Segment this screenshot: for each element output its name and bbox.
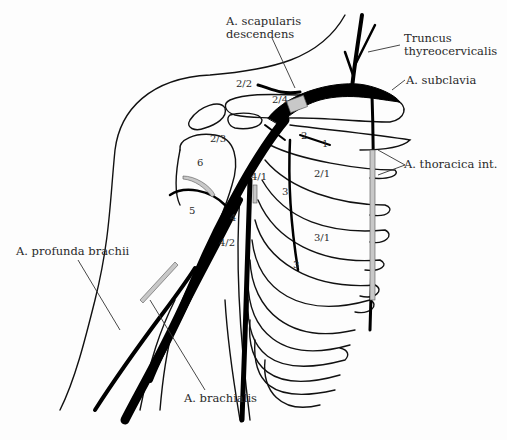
ligation-profunda	[140, 262, 178, 303]
marker-4-1: 4/1	[251, 171, 267, 182]
label-line: thyreocervicalis	[404, 45, 497, 58]
label-brachialis: A. brachialis	[184, 392, 257, 405]
marker-3: 3	[282, 186, 288, 197]
label-subclavia: A. subclavia	[406, 74, 476, 87]
artery-illustration	[0, 0, 507, 440]
label-line: descendens	[226, 28, 301, 41]
ligation-thoracica	[370, 150, 375, 300]
marker-3b: 3	[293, 259, 299, 270]
marker-5: 5	[189, 205, 195, 216]
ligation-4-1	[253, 185, 257, 203]
marker-4-2: 4/2	[219, 237, 235, 248]
label-truncus-thyreocervicalis: Truncus thyreocervicalis	[404, 32, 497, 58]
label-profunda-brachii: A. profunda brachii	[16, 245, 129, 258]
marker-2-3: 2/3	[210, 133, 226, 144]
marker-1: 1	[322, 138, 328, 149]
ligation-2-4	[286, 95, 307, 112]
anatomy-diagram: A. scapularis descendens Truncus thyreoc…	[0, 0, 507, 440]
marker-2-4: 2/4	[272, 94, 288, 105]
ligation-6	[183, 176, 215, 197]
marker-2: 2	[301, 130, 307, 141]
marker-2-2: 2/2	[236, 78, 252, 89]
marker-2-1: 2/1	[314, 168, 330, 179]
label-scapularis-descendens: A. scapularis descendens	[226, 15, 301, 41]
marker-6: 6	[197, 157, 203, 168]
label-thoracica-int: A. thoracica int.	[404, 158, 497, 171]
marker-3-1: 3/1	[314, 232, 330, 243]
marker-4: 4	[230, 212, 236, 223]
